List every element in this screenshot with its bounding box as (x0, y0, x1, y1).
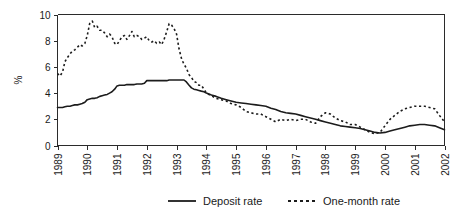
x-tick-label: 1994 (201, 153, 212, 176)
x-tick-label: 1991 (112, 153, 123, 176)
interest-rate-line-chart: 0246810 19891990199119921993199419951996… (0, 0, 470, 218)
x-axis-tick-labels: 1989199019911992199319941995199619971998… (53, 153, 451, 176)
y-tick-label: 0 (45, 141, 51, 152)
x-tick-label: 1990 (82, 153, 93, 176)
y-tick-label: 8 (45, 36, 51, 47)
x-tick-label: 1997 (291, 153, 302, 176)
x-tick-label: 2001 (410, 153, 421, 176)
chart-axes (58, 15, 445, 146)
y-tick-label: 10 (39, 10, 51, 21)
y-axis-title: % (13, 75, 24, 84)
x-tick-label: 1998 (320, 153, 331, 176)
legend-label-deposit-rate: Deposit rate (203, 195, 262, 207)
y-tick-label: 2 (45, 114, 51, 125)
x-tick-label: 1995 (231, 153, 242, 176)
x-tick-label: 2000 (380, 153, 391, 176)
chart-legend: Deposit rate One-month rate (168, 195, 400, 207)
series-line-one-month-rate (58, 21, 445, 134)
x-tick-label: 1999 (350, 153, 361, 176)
x-tick-label: 1989 (53, 153, 64, 176)
chart-figure: 0246810 19891990199119921993199419951996… (0, 0, 470, 218)
y-tick-label: 6 (45, 62, 51, 73)
chart-series (58, 21, 445, 134)
x-tick-label: 2002 (440, 153, 451, 176)
legend-label-one-month-rate: One-month rate (323, 195, 400, 207)
x-tick-label: 1992 (142, 153, 153, 176)
x-axis-ticks (59, 146, 446, 150)
x-tick-label: 1993 (172, 153, 183, 176)
y-tick-label: 4 (45, 88, 51, 99)
y-axis-tick-labels: 0246810 (39, 10, 51, 152)
series-line-deposit-rate (58, 80, 445, 133)
plot-frame (58, 15, 445, 146)
x-tick-label: 1996 (261, 153, 272, 176)
y-axis-ticks (54, 16, 58, 147)
